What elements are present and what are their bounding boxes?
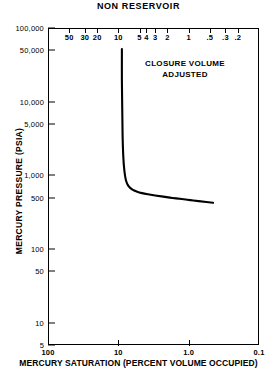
capillary-pressure-curve bbox=[122, 49, 213, 203]
chart-container: NON RESERVOIR MERCURY PRESSURE (PSIA) ME… bbox=[0, 0, 277, 372]
data-curve-layer bbox=[0, 0, 277, 372]
